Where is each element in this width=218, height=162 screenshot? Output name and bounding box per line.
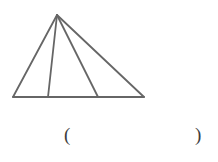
right-side xyxy=(57,15,144,97)
triangle-segments-group xyxy=(13,15,144,97)
figure-root: ( ) xyxy=(0,0,218,162)
cevian-2 xyxy=(57,15,98,97)
answer-row: ( ) xyxy=(0,122,218,150)
answer-close-paren: ) xyxy=(195,122,201,148)
left-side xyxy=(13,15,57,97)
answer-open-paren: ( xyxy=(64,122,70,148)
cevian-1 xyxy=(48,15,57,97)
answer-blank-field[interactable] xyxy=(76,122,192,148)
